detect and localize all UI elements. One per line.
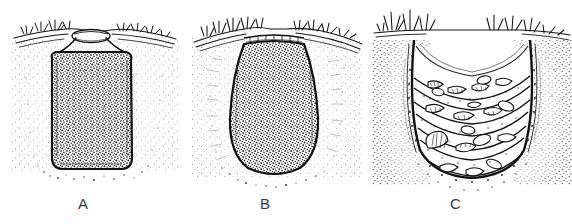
panel-label-c: C [450, 196, 461, 211]
panel-label-b: B [260, 196, 271, 211]
figure-three-pit-profiles: A B C [0, 0, 572, 224]
panel-label-a: A [78, 196, 89, 211]
grass-tufts-c-left [377, 10, 435, 31]
capstone-a [72, 30, 110, 43]
grass-tufts-b-right [294, 20, 356, 38]
grass-tufts-b-left [201, 17, 263, 36]
panel-a-drawing [0, 0, 190, 224]
pit-fill-a [52, 52, 133, 169]
panel-b-pit-profile [182, 0, 372, 224]
panel-a-pit-profile [0, 0, 190, 224]
panel-c-drawing [372, 0, 572, 224]
panel-c-pit-profile [372, 0, 572, 224]
ground-surface-c [374, 30, 570, 40]
pit-fill-b [230, 41, 318, 174]
panel-b-drawing [182, 0, 372, 224]
